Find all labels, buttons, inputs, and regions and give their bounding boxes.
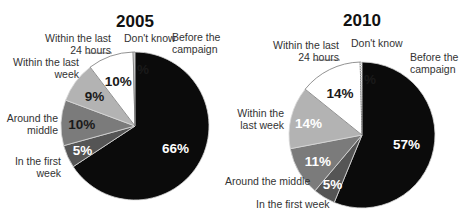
category-label-within-the-last-week: Within the lastweek xyxy=(13,56,80,80)
data-label-within-the-last-week: 9% xyxy=(85,89,105,104)
pie-chart-2010: 201057%5%11%14%14%%Before thecampaignIn … xyxy=(225,11,459,210)
category-label-don-t-know: Don't know xyxy=(124,32,176,44)
category-label-before-the-campaign: Before thecampaign xyxy=(410,51,459,75)
category-label-within-the-last-24-hours: Within the last24 hours xyxy=(273,39,339,63)
data-label-around-the-middle: 10% xyxy=(68,117,95,132)
data-label-before-the-campaign: 57% xyxy=(393,137,420,152)
chart-title: 2005 xyxy=(116,12,154,31)
category-label-within-the-last-24-hours: Within the last24 hours xyxy=(45,32,111,56)
data-label-within-the-last-24-hours: 10% xyxy=(105,74,132,89)
chart-title: 2010 xyxy=(343,11,381,30)
data-label-don-t-know: % xyxy=(364,72,376,87)
data-label-in-the-first-week: 5% xyxy=(73,143,93,158)
data-label-within-the-last-week: 14% xyxy=(295,116,322,131)
data-label-within-the-last-24-hours: 14% xyxy=(326,86,353,101)
data-label-before-the-campaign: 66% xyxy=(162,141,189,156)
data-label-around-the-middle: 11% xyxy=(305,154,331,169)
category-label-in-the-first-week: In the firstweek xyxy=(15,155,62,179)
category-label-in-the-first-week: In the first week xyxy=(256,198,330,210)
data-label-don-t-know: % xyxy=(137,62,149,77)
category-label-don-t-know: Don't know xyxy=(351,37,403,49)
pie-chart-2005: 200566%5%10%9%10%%Before thecampaignIn t… xyxy=(7,12,221,200)
category-label-around-the-middle: Around themiddle xyxy=(7,112,59,136)
pie-charts: 200566%5%10%9%10%%Before thecampaignIn t… xyxy=(0,0,467,223)
category-label-within-the-last-week: Within thelast week xyxy=(237,107,284,131)
category-label-around-the-middle: Around the middle xyxy=(225,175,310,187)
category-label-before-the-campaign: Before thecampaign xyxy=(172,31,221,55)
data-label-in-the-first-week: 5% xyxy=(323,177,343,192)
